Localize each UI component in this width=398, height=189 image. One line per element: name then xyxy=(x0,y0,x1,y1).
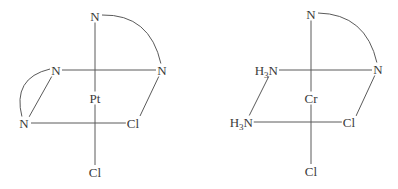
pt-chelate-arc-left xyxy=(20,69,50,117)
cr-metal-center: Cr xyxy=(304,92,319,105)
pt-ligand-back-right: N xyxy=(156,64,167,77)
h-prefix: H xyxy=(230,115,239,130)
pt-metal-center: Pt xyxy=(89,92,102,105)
pt-ligand-front-right: Cl xyxy=(126,117,140,130)
pt-right-edge-bond xyxy=(140,76,159,116)
cr-ligand-front-right: Cl xyxy=(342,116,356,129)
h-prefix: H xyxy=(255,63,264,78)
cr-ligand-top: N xyxy=(305,8,316,21)
n-atom: N xyxy=(244,115,253,130)
diagram-canvas: N N N Pt N Cl Cl N H3N N Cr H3N Cl Cl xyxy=(0,0,398,189)
cr-chelate-arc-top xyxy=(318,13,377,63)
bond-lines xyxy=(0,0,398,189)
cr-ligand-back-left: H3N xyxy=(254,64,279,77)
cr-ligand-back-right: N xyxy=(372,63,383,76)
n-atom: N xyxy=(269,63,278,78)
pt-left-edge-bond xyxy=(29,76,52,117)
pt-ligand-top: N xyxy=(89,10,100,23)
cr-ligand-bottom: Cl xyxy=(304,165,318,178)
pt-ligand-front-left: N xyxy=(18,117,29,130)
cr-right-edge-bond xyxy=(356,75,375,116)
cr-left-edge-bond xyxy=(249,76,269,116)
cr-ligand-front-left: H3N xyxy=(229,116,254,129)
pt-ligand-bottom: Cl xyxy=(88,166,102,179)
pt-chelate-arc-top xyxy=(102,15,161,64)
pt-ligand-back-left: N xyxy=(50,64,61,77)
